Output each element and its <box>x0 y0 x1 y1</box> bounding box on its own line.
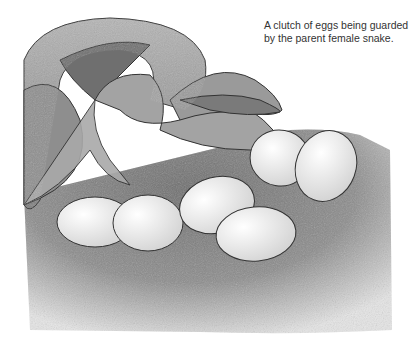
egg <box>113 195 183 251</box>
snake-eggs-illustration <box>0 0 414 346</box>
